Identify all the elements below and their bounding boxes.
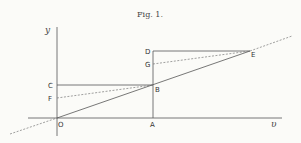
figure-title: Fig. 1. bbox=[137, 10, 163, 19]
point-E-label: E bbox=[251, 51, 255, 59]
point-B-label: B bbox=[155, 86, 160, 94]
x-axis-label: υ bbox=[271, 119, 277, 129]
figure-canvas: Fig. 1. y υ O A B C D E F G bbox=[0, 0, 301, 143]
point-G-label: G bbox=[145, 61, 150, 69]
line-OE bbox=[57, 51, 250, 118]
dashed-extension-right bbox=[250, 36, 292, 51]
dashed-FB bbox=[57, 85, 153, 98]
point-A-label: A bbox=[150, 121, 155, 129]
point-F-label: F bbox=[48, 95, 52, 103]
y-axis-label: y bbox=[44, 25, 51, 35]
dashed-GE bbox=[153, 51, 250, 64]
dashed-extension-left bbox=[10, 118, 57, 134]
point-O-label: O bbox=[58, 121, 64, 129]
point-D-label: D bbox=[145, 48, 150, 56]
diagram: Fig. 1. y υ O A B C D E F G bbox=[0, 0, 301, 143]
point-C-label: C bbox=[48, 82, 53, 90]
